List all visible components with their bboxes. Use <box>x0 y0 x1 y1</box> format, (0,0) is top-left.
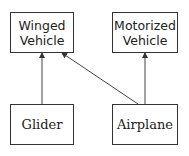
node-label-line1: Motorized <box>114 18 176 33</box>
node-glider: Glider <box>10 104 74 145</box>
node-airplane: Airplane <box>112 104 178 145</box>
node-motorized-vehicle: Motorized Vehicle <box>112 12 178 53</box>
node-label-line2: Vehicle <box>18 33 65 48</box>
node-label-line2: Vehicle <box>114 33 176 48</box>
node-label: Airplane <box>117 117 173 132</box>
node-winged-vehicle: Winged Vehicle <box>10 12 74 53</box>
node-label: Glider <box>22 117 63 132</box>
node-label-line1: Winged <box>18 18 65 33</box>
edge-airplane-winged <box>62 53 138 104</box>
